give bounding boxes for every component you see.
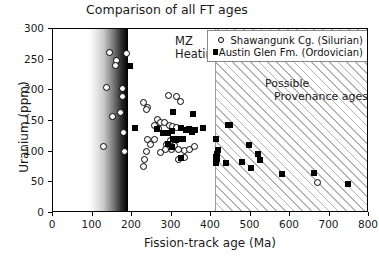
provenance-line2: Provenance ages <box>265 90 368 103</box>
data-point <box>223 160 229 166</box>
data-point <box>119 85 126 92</box>
chart-title: Comparison of all FT ages <box>52 2 282 17</box>
y-axis-tick <box>48 212 52 213</box>
data-point <box>121 148 128 155</box>
data-point <box>170 136 176 142</box>
data-point <box>190 111 196 117</box>
data-point <box>200 125 206 131</box>
data-point <box>192 127 198 133</box>
legend: Shawangunk Cg. (Silurian) Austin Glen Fm… <box>207 30 368 62</box>
data-point <box>311 170 317 176</box>
y-axis-tick-label: 300 <box>6 22 44 34</box>
data-point <box>100 143 107 150</box>
data-point <box>255 151 261 157</box>
x-axis-tick <box>131 212 132 216</box>
x-axis-label: Fission-track age (Ma) <box>52 236 368 250</box>
data-point <box>248 165 254 171</box>
y-axis-tick <box>48 89 52 90</box>
data-point <box>279 171 285 177</box>
data-point <box>165 92 172 99</box>
x-axis-tick <box>210 212 211 216</box>
x-axis-tick-label: 500 <box>239 218 259 230</box>
x-axis-tick <box>250 212 251 216</box>
x-axis-tick <box>368 212 369 216</box>
data-point <box>213 136 219 142</box>
data-point <box>239 159 245 165</box>
data-point <box>246 142 252 148</box>
x-axis-tick <box>289 212 290 216</box>
mz-heating-line1: MZ <box>175 34 193 48</box>
x-axis-tick-label: 100 <box>81 218 101 230</box>
x-axis-tick <box>329 212 330 216</box>
data-point <box>157 149 164 156</box>
x-axis-tick-label: 0 <box>49 218 56 230</box>
data-point <box>140 163 147 170</box>
filled-square-icon <box>212 49 219 55</box>
legend-item-shawangunk: Shawangunk Cg. (Silurian) <box>212 34 363 46</box>
data-point <box>169 144 175 150</box>
y-axis-tick <box>48 28 52 29</box>
figure-scatter-ft-ages: Comparison of all FT ages MZ Heating Pos… <box>0 0 379 260</box>
x-axis-tick <box>52 212 53 216</box>
data-point <box>120 129 127 136</box>
data-point <box>169 128 175 134</box>
data-point <box>257 157 263 163</box>
mz-heating-band <box>89 29 129 211</box>
data-point <box>119 93 126 100</box>
data-point <box>109 113 116 120</box>
x-axis-tick-label: 800 <box>358 218 378 230</box>
y-axis-tick <box>48 151 52 152</box>
legend-label-shawangunk: Shawangunk Cg. (Silurian) <box>230 35 363 46</box>
y-axis-tick <box>48 120 52 121</box>
data-point <box>345 181 351 187</box>
data-point <box>103 84 110 91</box>
y-axis-label: Uranium (ppm) <box>17 47 31 207</box>
data-point <box>143 148 150 155</box>
x-axis-tick-label: 300 <box>160 218 180 230</box>
x-axis-tick <box>92 212 93 216</box>
legend-item-austin-glen: Austin Glen Fm. (Ordovician) <box>212 46 363 58</box>
data-point <box>147 141 154 148</box>
x-axis-tick-label: 700 <box>318 218 338 230</box>
data-point <box>177 98 184 105</box>
data-point <box>170 109 176 115</box>
y-axis-tick <box>48 181 52 182</box>
open-circle-icon <box>212 37 230 43</box>
data-point <box>213 160 219 166</box>
y-axis-tick-label: 0 <box>6 206 44 218</box>
x-axis-tick <box>171 212 172 216</box>
x-axis-tick-label: 600 <box>279 218 299 230</box>
provenance-line1: Possible <box>265 77 309 90</box>
data-point <box>127 63 133 69</box>
provenance-annotation: Possible Provenance ages <box>265 77 368 103</box>
data-point <box>180 136 186 142</box>
data-point <box>123 50 130 57</box>
data-point <box>191 143 198 150</box>
y-axis-tick <box>48 59 52 60</box>
plot-area: MZ Heating Possible Provenance ages Shaw… <box>52 28 368 212</box>
data-point <box>225 122 231 128</box>
legend-label-austin-glen: Austin Glen Fm. (Ordovician) <box>219 47 363 58</box>
data-point <box>112 62 119 69</box>
x-axis-tick-label: 200 <box>121 218 141 230</box>
data-point <box>178 155 184 161</box>
data-point <box>132 125 138 131</box>
data-point <box>143 106 150 113</box>
data-point <box>314 179 321 186</box>
x-axis-tick-label: 400 <box>200 218 220 230</box>
